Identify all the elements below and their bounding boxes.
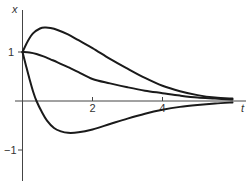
y-tick-label-1: 1 [8, 46, 14, 58]
curves-group [23, 27, 233, 132]
y-tick-label-m1: −1 [4, 144, 17, 156]
x-axis-label: t [241, 102, 245, 114]
curve-middle [23, 52, 233, 100]
curve-lower [23, 52, 233, 133]
line-chart: 2 4 1 −1 x t [0, 0, 250, 187]
x-tick-label-4: 4 [160, 102, 166, 114]
x-tick-label-2: 2 [90, 102, 96, 114]
y-axis-label: x [11, 3, 18, 15]
